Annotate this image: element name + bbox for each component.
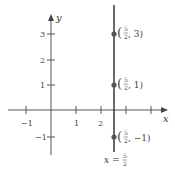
tick-label-y-1: 1 [40,81,45,90]
svg-text:, 3): , 3) [128,29,143,39]
tick-label-x-1: 1 [74,119,79,128]
svg-text:(: ( [117,25,122,40]
svg-text:x =: x = [104,155,119,165]
tick-label-y-neg1: −1 [35,133,47,142]
point-5-2-3 [111,31,116,36]
point-label-5-2-1: ( 5 2 , 1) [117,76,143,91]
line-equation-label: x = 5 2 [104,152,127,167]
tick-label-y-3: 3 [40,30,45,39]
svg-text:(: ( [117,76,122,91]
svg-text:2: 2 [123,160,127,167]
point-label-5-2-neg1: ( 5 2 , −1) [117,129,151,144]
svg-text:, −1): , −1) [128,133,151,143]
svg-text:5: 5 [123,152,127,159]
point-5-2-neg1 [111,134,116,139]
point-label-5-2-3: ( 5 2 , 3) [117,25,143,40]
point-5-2-1 [111,82,116,87]
svg-text:, 1): , 1) [128,80,143,90]
tick-label-y-2: 2 [40,56,45,65]
y-axis-arrow-icon [48,14,54,21]
y-axis-label: y [55,12,62,23]
tick-label-x-2: 2 [98,119,103,128]
x-axis-label: x [163,113,169,124]
coordinate-plane: x y −1 1 2 3 2 1 −1 ( 5 2 , 3) ( 5 [0,0,175,176]
tick-label-x-neg1: −1 [21,119,33,128]
svg-text:(: ( [117,129,122,144]
